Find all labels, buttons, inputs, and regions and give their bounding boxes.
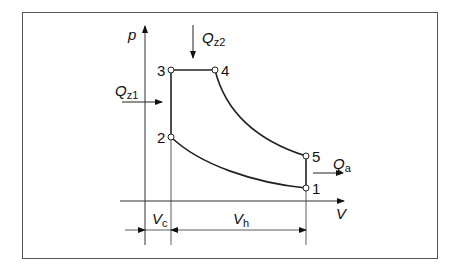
point-2: [168, 134, 174, 140]
point-4: [212, 67, 218, 73]
point-5: [303, 153, 309, 159]
vc-label: Vc: [152, 211, 168, 229]
cycle-path: [171, 70, 306, 188]
point-3: [168, 67, 174, 73]
point-1: [303, 185, 309, 191]
x-axis-label: V: [336, 206, 346, 221]
point-3-label: 3: [157, 63, 165, 78]
point-5-label: 5: [312, 149, 320, 164]
vh-label: Vh: [233, 211, 249, 229]
y-axis-label: p: [128, 27, 136, 42]
qz1-label: Qz1: [115, 83, 138, 101]
pv-diagram: [0, 0, 456, 271]
point-2-label: 2: [157, 130, 165, 145]
qa-label: Qa: [333, 156, 351, 174]
point-4-label: 4: [221, 63, 229, 78]
point-1-label: 1: [312, 181, 320, 196]
qz2-label: Qz2: [202, 30, 225, 48]
